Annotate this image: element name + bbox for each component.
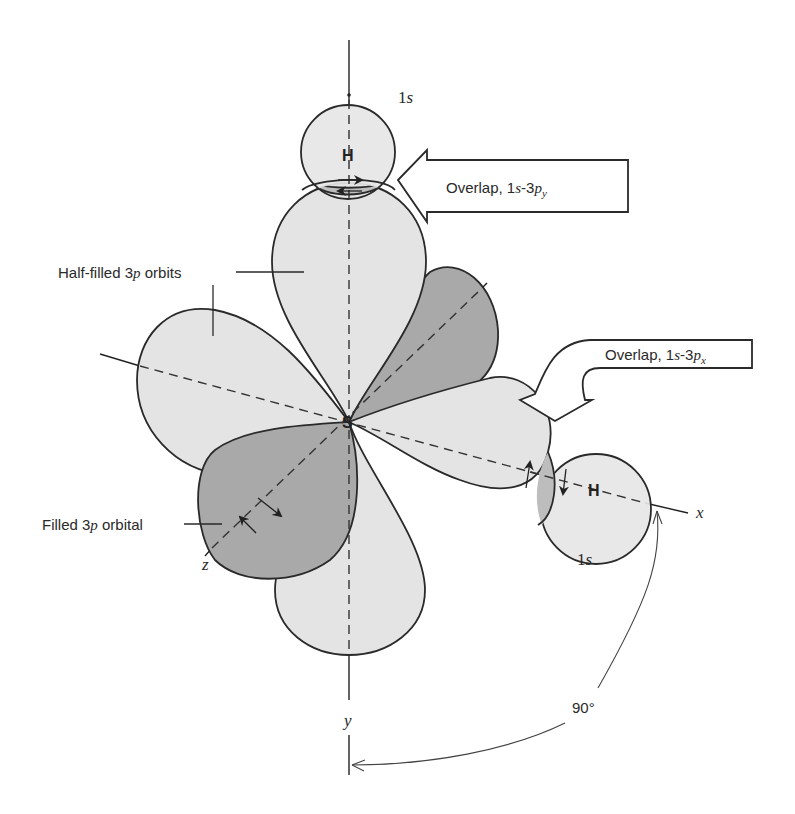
y-axis-dot	[347, 93, 351, 97]
filled-label: Filled 3p orbital	[42, 516, 143, 533]
angle-arc-lower	[352, 723, 565, 765]
hydrogen-right-1s-label: 1s	[577, 550, 593, 569]
hydrogen-right-1s-orbital	[541, 454, 651, 564]
sulfur-atom-label: S	[342, 414, 353, 431]
orbital-diagram: S H H 1s 1s x y z Overlap, 1s-3py Overla…	[0, 0, 795, 814]
half-filled-label: Half-filled 3p orbits	[58, 264, 181, 281]
x-axis-label: x	[695, 503, 704, 522]
x-axis-line-left	[100, 354, 140, 366]
angle-label: 90°	[572, 699, 595, 716]
hydrogen-top-1s-label: 1s	[398, 88, 414, 107]
z-axis-label: z	[201, 555, 209, 574]
y-axis-label: y	[342, 711, 352, 730]
hydrogen-top-label: H	[342, 147, 354, 164]
hydrogen-right-label: H	[588, 482, 600, 499]
filled-3p-lobe-front	[198, 422, 357, 579]
